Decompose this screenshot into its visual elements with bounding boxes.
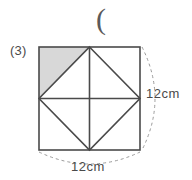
- right-dimension-label: 12cm: [146, 87, 180, 100]
- geometry-figure: (3) 12cm 12cm (: [0, 0, 192, 180]
- stray-parenthesis-mark: (: [96, 4, 106, 34]
- bottom-dimension-label: 12cm: [71, 160, 105, 173]
- item-number-label: (3): [10, 44, 27, 57]
